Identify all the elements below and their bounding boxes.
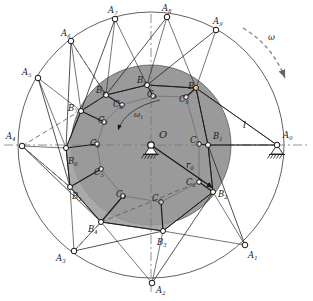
figure-canvas: A0A1A2A3A4A5A6A7A8A9B1B2B3B4B5B6B7B8B9B0… (0, 0, 313, 301)
joint-o (148, 142, 154, 148)
label-c9: C9 (147, 90, 157, 99)
joint-a0 (274, 142, 280, 148)
label-b2: B2 (218, 190, 228, 199)
joint-a2 (149, 280, 155, 286)
label-b9: B9 (137, 76, 147, 85)
label-b0: B0 (188, 82, 198, 91)
label-omega: ω (268, 33, 275, 42)
joint-a6 (68, 38, 74, 44)
label-a7: A7 (108, 6, 118, 15)
label-radius-r0: r0 (186, 161, 194, 170)
diagram-svg (0, 0, 313, 301)
label-b1: B1 (213, 132, 223, 141)
joint-b3 (161, 229, 166, 234)
label-a5: A5 (22, 68, 32, 77)
label-b7: B7 (68, 104, 78, 113)
joint-b7 (79, 109, 84, 114)
label-a8: A8 (162, 4, 172, 13)
label-a1: A1 (248, 251, 258, 260)
label-a6: A6 (61, 29, 71, 38)
label-b6: B6 (68, 157, 78, 166)
label-c3: C3 (152, 194, 162, 203)
joint-b1 (206, 143, 211, 148)
joint-b6 (64, 146, 69, 151)
joint-b5 (68, 185, 73, 190)
label-c1: C1 (190, 136, 200, 145)
label-c7: C7 (98, 116, 108, 125)
joint-a9 (213, 27, 219, 33)
joint-b2 (211, 190, 216, 195)
label-c2: C2 (186, 178, 196, 187)
joint-a4 (19, 143, 25, 149)
label-b4: B4 (88, 225, 98, 234)
label-a2: A2 (156, 286, 166, 295)
label-a4: A4 (6, 132, 16, 141)
label-c5: C5 (94, 168, 104, 177)
label-b3: B3 (157, 238, 167, 247)
label-a0: A0 (283, 131, 293, 140)
joint-c2 (197, 180, 202, 185)
joint-a7 (112, 16, 118, 22)
label-c8: C8 (113, 100, 123, 109)
joint-a1 (242, 242, 248, 248)
joint-a8 (164, 14, 170, 20)
label-link-l: l (243, 120, 246, 130)
label-c0: C0 (179, 95, 189, 104)
label-a9: A9 (213, 17, 223, 26)
joint-a3 (71, 248, 77, 254)
label-c6: C6 (90, 139, 100, 148)
label-c4: C4 (116, 190, 126, 199)
label-b5: B5 (72, 192, 82, 201)
joint-b4 (99, 220, 104, 225)
joint-a5 (35, 75, 41, 81)
label-a3: A3 (56, 254, 66, 263)
label-center-o: O (159, 130, 167, 140)
label-omega1: ω1 (134, 111, 143, 119)
label-b8: B8 (96, 86, 106, 95)
